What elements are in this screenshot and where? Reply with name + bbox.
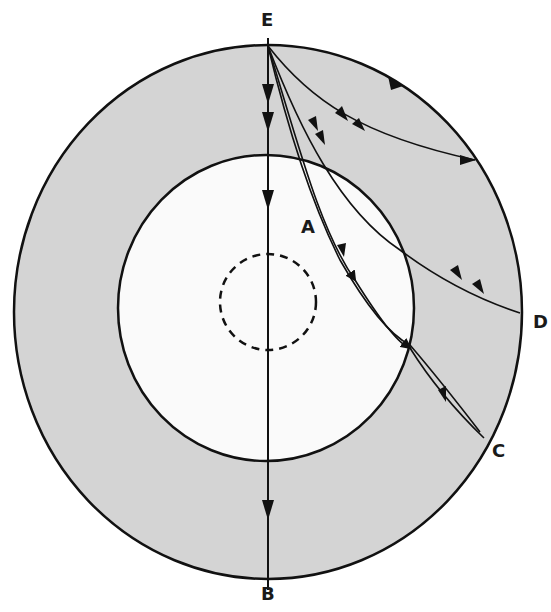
label-A: A [301,218,315,236]
label-B: B [261,585,275,603]
seismic-ray-diagram [0,0,551,612]
label-E: E [261,11,273,29]
label-C: C [492,442,505,460]
label-D: D [533,313,548,331]
